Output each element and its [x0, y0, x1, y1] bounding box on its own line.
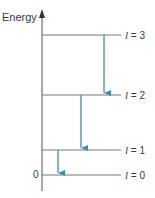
level-label-l3: l = 3	[125, 30, 145, 41]
level-label-l2: l = 2	[125, 90, 145, 101]
level-label-l0: l = 0	[125, 170, 145, 181]
zero-label: 0	[33, 170, 39, 180]
axis-arrow-icon	[39, 9, 45, 18]
level-label-l1: l = 1	[125, 145, 145, 156]
energy-axis-label: Energy	[2, 12, 37, 22]
